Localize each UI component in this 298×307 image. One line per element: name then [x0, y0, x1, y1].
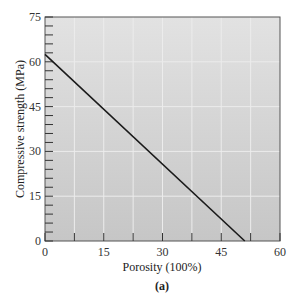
x-tick-label: 15	[98, 245, 110, 259]
y-tick-label: 30	[29, 144, 41, 158]
y-tick-label: 75	[29, 10, 41, 24]
y-tick-label: 45	[29, 100, 41, 114]
x-tick-label: 30	[157, 245, 169, 259]
chart: 01530456075015304560 Compressive strengt…	[0, 0, 298, 307]
y-tick-label: 0	[35, 234, 41, 248]
figure-caption: (a)	[155, 279, 169, 293]
plot-area: 01530456075015304560	[29, 10, 286, 259]
x-axis-label: Porosity (100%)	[123, 260, 202, 274]
x-tick-label: 0	[42, 245, 48, 259]
y-tick-label: 15	[29, 189, 41, 203]
x-tick-label: 60	[274, 245, 286, 259]
y-tick-label: 60	[29, 55, 41, 69]
x-tick-label: 45	[215, 245, 227, 259]
y-axis-label: Compressive strength (MPa)	[13, 60, 27, 198]
